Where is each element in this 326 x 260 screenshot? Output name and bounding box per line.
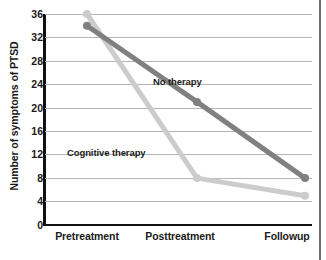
plot-area: No therapy Cognitive therapy xyxy=(45,14,312,225)
x-tick-posttreatment: Posttreatment xyxy=(145,230,214,242)
y-tick-8: 8 xyxy=(20,173,43,184)
y-axis-title: Number of symptoms of PTSD xyxy=(8,16,20,216)
x-axis-tick-labels: Pretreatment Posttreatment Followup xyxy=(0,230,326,248)
data-point-pretreatment xyxy=(83,22,91,30)
y-tick-0: 0 xyxy=(20,219,43,230)
y-tick-36: 36 xyxy=(20,9,43,20)
y-tick-12: 12 xyxy=(20,149,43,160)
data-point-posttreatment xyxy=(193,174,201,182)
y-tick-4: 4 xyxy=(20,196,43,207)
series-plot-svg xyxy=(45,14,312,225)
figure-right-rule xyxy=(319,0,321,260)
data-point-pretreatment xyxy=(83,10,91,18)
series-annotation-cognitive-therapy: Cognitive therapy xyxy=(67,147,146,158)
y-tick-28: 28 xyxy=(20,56,43,67)
x-tick-followup: Followup xyxy=(264,230,309,242)
data-point-followup xyxy=(301,192,309,200)
y-tick-32: 32 xyxy=(20,32,43,43)
data-point-followup xyxy=(301,174,309,182)
y-axis-tick-labels: 36 32 28 24 20 16 12 8 4 0 xyxy=(20,0,43,260)
x-tick-pretreatment: Pretreatment xyxy=(55,230,119,242)
y-tick-24: 24 xyxy=(20,79,43,90)
y-tick-16: 16 xyxy=(20,126,43,137)
series-annotation-no-therapy: No therapy xyxy=(153,76,202,87)
ptsd-symptoms-line-chart: Number of symptoms of PTSD 36 32 28 24 2… xyxy=(0,0,326,260)
y-tick-20: 20 xyxy=(20,102,43,113)
series-no-therapy xyxy=(83,22,309,182)
data-point-posttreatment xyxy=(193,98,201,106)
